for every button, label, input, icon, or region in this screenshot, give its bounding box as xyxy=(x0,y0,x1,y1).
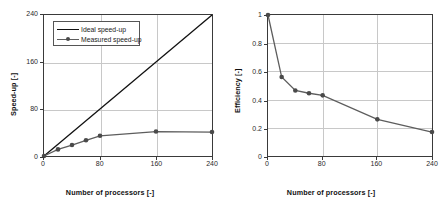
y-tick-label: 0 xyxy=(247,153,262,161)
plot-area-efficiency xyxy=(267,14,433,157)
y-tick xyxy=(40,14,43,15)
y-tick-label: 1 xyxy=(247,11,262,19)
x-tick-label: 0 xyxy=(265,160,269,168)
legend-label-ideal: Ideal speed-up xyxy=(81,25,126,34)
y-tick-label: 0.2 xyxy=(247,125,262,133)
x-tick-label: 240 xyxy=(206,160,218,168)
x-tick-label: 80 xyxy=(318,160,326,168)
legend-key-measured-icon xyxy=(57,35,79,44)
y-tick xyxy=(264,101,267,102)
line-efficiency xyxy=(268,15,432,132)
y-tick-label: 0.8 xyxy=(247,40,262,48)
series-layer-efficiency xyxy=(268,15,432,156)
x-tick-label: 240 xyxy=(426,160,438,168)
y-tick xyxy=(40,62,43,63)
panel-efficiency: 0 80 160 240 0 0.2 0.4 0.6 0.8 1 Number … xyxy=(221,0,441,203)
y-tick xyxy=(264,15,267,16)
y-tick-label: 0 xyxy=(23,153,38,161)
legend-label-measured: Measured speed-up xyxy=(81,35,141,44)
x-tick-label: 160 xyxy=(150,160,162,168)
legend-item-ideal: Ideal speed-up xyxy=(57,24,136,34)
x-axis-title: Number of processors [-] xyxy=(66,188,154,197)
y-tick xyxy=(40,157,43,158)
x-axis-title: Number of processors [-] xyxy=(287,188,375,197)
x-tick-label: 0 xyxy=(41,160,45,168)
y-axis-title: Efficiency [-] xyxy=(233,68,242,113)
y-tick xyxy=(264,72,267,73)
markers-efficiency xyxy=(266,13,435,135)
panel-speedup: 0 80 160 240 0 80 160 240 Number of proc… xyxy=(0,0,220,203)
x-tick-label: 80 xyxy=(96,160,104,168)
legend-key-ideal-icon xyxy=(57,25,79,34)
legend-speedup: Ideal speed-up Measured speed-up xyxy=(53,21,140,46)
y-tick-label: 0.4 xyxy=(247,97,262,105)
y-axis-title: Speed-up [-] xyxy=(9,73,18,116)
x-tick-label: 160 xyxy=(370,160,382,168)
y-tick-label: 160 xyxy=(23,58,38,66)
figure-two-panel-chart: 0 80 160 240 0 80 160 240 Number of proc… xyxy=(0,0,441,203)
y-tick xyxy=(264,44,267,45)
y-tick xyxy=(264,129,267,130)
y-tick-label: 0.6 xyxy=(247,68,262,76)
y-tick-label: 240 xyxy=(23,10,38,18)
y-tick xyxy=(40,109,43,110)
legend-item-measured: Measured speed-up xyxy=(57,34,136,44)
y-tick-label: 80 xyxy=(23,105,38,113)
y-tick xyxy=(264,157,267,158)
